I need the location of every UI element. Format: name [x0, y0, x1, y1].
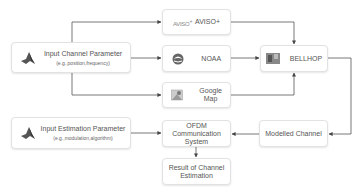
ofdm-label-3: System — [172, 138, 221, 146]
input-channel-title: Input Channel Parameter — [36, 50, 130, 58]
result-node: Result of Channel Estimation — [162, 158, 231, 185]
modelled-channel-node: Modelled Channel — [259, 120, 328, 147]
input-estimation-subtitle: (e.g.,modulation,algorithm) — [36, 135, 130, 141]
aviso-label: AVISO+ — [195, 18, 220, 26]
input-channel-parameter-node: Input Channel Parameter (e.g.,position,f… — [11, 42, 131, 73]
modelled-channel-label: Modelled Channel — [265, 130, 321, 138]
input-channel-subtitle: (e.g.,position,frequency) — [36, 60, 130, 66]
noaa-logo-icon — [172, 53, 184, 65]
bellhop-node: BELLHOP — [260, 45, 328, 72]
google-map-label-1: Google — [199, 87, 222, 95]
google-maps-icon — [171, 89, 183, 101]
aviso-logo-icon: AVISO+ — [173, 18, 192, 27]
bellhop-image-icon — [266, 53, 280, 64]
matlab-icon — [20, 51, 36, 65]
result-label-2: Estimation — [169, 172, 225, 180]
input-estimation-title: Input Estimation Parameter — [36, 125, 130, 133]
aviso-logo-sup: + — [189, 18, 192, 24]
matlab-icon — [20, 126, 36, 140]
noaa-label: NOAA — [201, 55, 221, 63]
bellhop-label: BELLHOP — [290, 55, 322, 63]
google-map-node: Google Map — [162, 82, 231, 108]
aviso-node: AVISO+ AVISO+ — [162, 9, 231, 35]
aviso-logo-text: AVISO — [173, 21, 189, 27]
noaa-node: NOAA — [162, 45, 231, 72]
ofdm-system-node: OFDM Communication System — [162, 120, 231, 147]
google-map-label-2: Map — [199, 95, 222, 103]
input-estimation-parameter-node: Input Estimation Parameter (e.g.,modulat… — [11, 117, 131, 149]
ofdm-label-1: OFDM — [172, 122, 221, 130]
result-label-1: Result of Channel — [169, 164, 225, 172]
ofdm-label-2: Communication — [172, 130, 221, 138]
